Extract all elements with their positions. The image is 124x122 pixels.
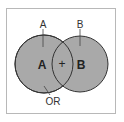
label-a-inner: A <box>38 58 47 72</box>
label-b-inner: B <box>77 58 86 72</box>
label-b-top: B <box>77 19 84 30</box>
label-a-top: A <box>40 19 47 30</box>
label-intersection: + <box>58 57 65 71</box>
venn-diagram: A B A + B OR <box>0 0 124 122</box>
label-or: OR <box>46 96 61 107</box>
